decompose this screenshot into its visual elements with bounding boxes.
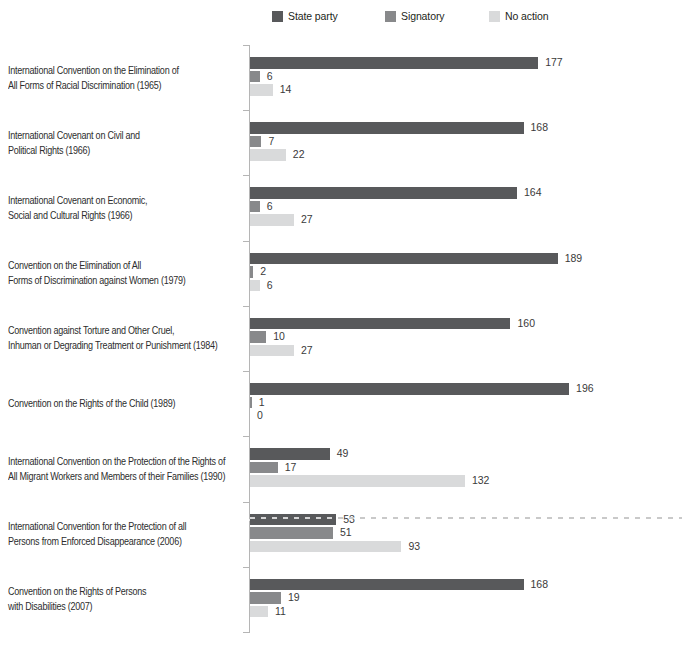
- legend-label-no-action: No action: [505, 10, 548, 22]
- category-label-line: International Covenant on Economic,: [8, 193, 205, 208]
- category-label-line: Persons from Enforced Disappearance (200…: [8, 534, 205, 549]
- bar-no-action: [250, 214, 294, 226]
- legend-item-signatory: Signatory: [385, 9, 444, 23]
- category-group: International Covenant on Civil andPolit…: [0, 110, 682, 175]
- category-label-line: Convention against Torture and Other Cru…: [8, 323, 205, 338]
- value-label: 11: [275, 606, 286, 618]
- value-label: 160: [517, 318, 535, 330]
- category-label-line: Political Rights (1966): [8, 143, 205, 158]
- legend-label-signatory: Signatory: [401, 10, 444, 22]
- category-label: Convention on the Rights of the Child (1…: [8, 371, 248, 436]
- category-label-line: All Forms of Racial Discrimination (1965…: [8, 78, 205, 93]
- bar-state-party: [250, 57, 538, 69]
- value-label: 132: [472, 475, 490, 487]
- category-label-line: Convention on the Elimination of All: [8, 258, 205, 273]
- category-group: International Convention on the Eliminat…: [0, 45, 682, 110]
- category-label-line: All Migrant Workers and Members of their…: [8, 469, 205, 484]
- bar-signatory: [250, 462, 278, 474]
- bar-state-party: [250, 318, 510, 330]
- axis-tick: [243, 632, 250, 633]
- bar-no-action: [250, 606, 268, 618]
- legend-swatch-no-action-icon: [489, 11, 500, 22]
- legend-item-no-action: No action: [489, 9, 548, 23]
- bar-no-action: [250, 149, 286, 161]
- value-label: 7: [268, 136, 274, 148]
- category-label-line: with Disabilities (2007): [8, 599, 205, 614]
- bar-signatory: [250, 136, 261, 148]
- value-label: 93: [408, 541, 420, 553]
- value-label: 196: [576, 383, 594, 395]
- bar-state-party: [250, 383, 569, 395]
- value-label: 14: [280, 84, 292, 96]
- category-label: International Covenant on Civil andPolit…: [8, 110, 248, 175]
- value-label: 177: [545, 57, 563, 69]
- value-label: 19: [288, 592, 300, 604]
- scan-artifact-line: [338, 517, 682, 519]
- category-label: International Convention on the Protecti…: [8, 436, 248, 501]
- value-label: 168: [531, 122, 549, 134]
- category-label-line: Social and Cultural Rights (1966): [8, 208, 205, 223]
- value-label: 27: [301, 214, 313, 226]
- bar-state-party: [250, 579, 524, 591]
- category-group: International Convention on the Protecti…: [0, 436, 682, 501]
- bar-state-party: [250, 122, 524, 134]
- category-label-line: International Covenant on Civil and: [8, 128, 205, 143]
- value-label: 2: [260, 266, 266, 278]
- bar-no-action: [250, 84, 273, 96]
- value-label: 6: [267, 280, 273, 292]
- value-label: 49: [337, 448, 349, 460]
- value-label: 10: [273, 331, 285, 343]
- value-label: 6: [267, 201, 273, 213]
- bar-signatory: [250, 71, 260, 83]
- bar-no-action: [250, 280, 260, 292]
- category-label: International Convention for the Protect…: [8, 502, 248, 567]
- value-label: 53: [343, 514, 355, 526]
- category-group: International Convention for the Protect…: [0, 502, 682, 567]
- category-group: Convention against Torture and Other Cru…: [0, 306, 682, 371]
- category-group: International Covenant on Economic,Socia…: [0, 175, 682, 240]
- category-label: Convention on the Elimination of AllForm…: [8, 241, 248, 306]
- bar-state-party: [250, 448, 330, 460]
- legend-swatch-state-party-icon: [272, 11, 283, 22]
- category-label-line: Forms of Discrimination against Women (1…: [8, 273, 205, 288]
- bar-state-party: [250, 514, 336, 526]
- legend-label-state-party: State party: [288, 10, 338, 22]
- bar-state-party: [250, 253, 558, 265]
- value-label: 17: [285, 462, 297, 474]
- category-label-line: Convention on the Rights of the Child (1…: [8, 396, 205, 411]
- category-group: Convention on the Rights of the Child (1…: [0, 371, 682, 436]
- legend-item-state-party: State party: [272, 9, 338, 23]
- bar-no-action: [250, 345, 294, 357]
- value-label: 51: [340, 527, 352, 539]
- bar-no-action: [250, 541, 401, 553]
- category-label: International Convention on the Eliminat…: [8, 45, 248, 110]
- value-label: 27: [301, 345, 313, 357]
- bar-signatory: [250, 527, 333, 539]
- category-label-line: International Convention on the Protecti…: [8, 454, 205, 469]
- legend-swatch-signatory-icon: [385, 11, 396, 22]
- bar-signatory: [250, 266, 253, 278]
- category-label-line: International Convention for the Protect…: [8, 519, 205, 534]
- value-label: 22: [293, 149, 305, 161]
- bar-signatory: [250, 592, 281, 604]
- bar-signatory: [250, 201, 260, 213]
- value-label: 189: [565, 253, 583, 265]
- bar-no-action: [250, 475, 465, 487]
- category-label: Convention against Torture and Other Cru…: [8, 306, 248, 371]
- category-group: Convention on the Elimination of AllForm…: [0, 241, 682, 306]
- scan-artifact-line: [250, 517, 338, 519]
- value-label: 1: [259, 397, 265, 409]
- value-label: 0: [257, 410, 263, 422]
- category-label-line: Convention on the Rights of Persons: [8, 584, 205, 599]
- category-label: Convention on the Rights of Personswith …: [8, 567, 248, 632]
- value-label: 168: [531, 579, 549, 591]
- category-label-line: Inhuman or Degrading Treatment or Punish…: [8, 338, 205, 353]
- category-label-line: International Convention on the Eliminat…: [8, 63, 205, 78]
- category-label: International Covenant on Economic,Socia…: [8, 175, 248, 240]
- category-group: Convention on the Rights of Personswith …: [0, 567, 682, 632]
- bar-signatory: [250, 331, 266, 343]
- chart-canvas: State party Signatory No action Internat…: [0, 0, 682, 658]
- value-label: 6: [267, 71, 273, 83]
- scan-artifact-line: [24, 519, 250, 521]
- bar-signatory: [250, 397, 252, 409]
